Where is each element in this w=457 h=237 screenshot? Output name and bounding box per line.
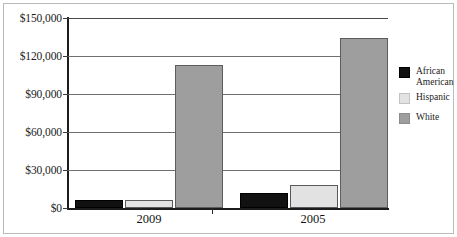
- y-tick-mark: [63, 18, 68, 19]
- bar-2009-african-american: [75, 200, 123, 208]
- legend-label-african-american: African American: [416, 66, 453, 87]
- bar-2009-hispanic: [125, 200, 173, 208]
- legend-label-hispanic: Hispanic: [416, 92, 450, 103]
- y-axis-labels: $150,000 $120,000 $90,000 $60,000 $30,00…: [0, 0, 64, 237]
- plot-area: [68, 18, 388, 208]
- y-tick-label: $150,000: [20, 12, 62, 24]
- legend-label-white: White: [416, 112, 439, 123]
- x-axis-group-divider-tick: [212, 208, 213, 214]
- y-tick-mark: [63, 170, 68, 171]
- legend-item-african-american: African American: [399, 66, 453, 87]
- y-tick-label: $0: [51, 202, 62, 214]
- bar-2005-hispanic: [290, 185, 338, 208]
- legend-swatch-icon-african-american: [399, 67, 410, 78]
- x-tick-label-2005: 2005: [301, 212, 326, 227]
- y-tick-mark: [63, 94, 68, 95]
- legend-swatch-icon-hispanic: [399, 93, 410, 104]
- gridline-150000: [68, 18, 388, 19]
- y-tick-label: $60,000: [25, 126, 62, 138]
- x-axis-line: [67, 208, 389, 210]
- bar-2009-white: [175, 65, 223, 208]
- y-tick-mark: [63, 56, 68, 57]
- y-tick-mark: [63, 208, 68, 209]
- y-tick-label: $120,000: [20, 50, 62, 62]
- bar-2005-white: [340, 38, 388, 208]
- bar-2005-african-american: [240, 193, 288, 208]
- legend-item-hispanic: Hispanic: [399, 92, 450, 104]
- legend-item-white: White: [399, 112, 439, 124]
- y-tick-mark: [63, 132, 68, 133]
- x-tick-label-2009: 2009: [137, 212, 162, 227]
- y-tick-label: $90,000: [25, 88, 62, 100]
- chart-figure: $150,000 $120,000 $90,000 $60,000 $30,00…: [0, 0, 457, 237]
- legend-swatch-icon-white: [399, 113, 410, 124]
- y-tick-label: $30,000: [25, 164, 62, 176]
- y-axis-line: [67, 17, 69, 209]
